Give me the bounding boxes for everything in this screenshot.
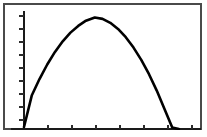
plot-area[interactable] [9, 9, 202, 130]
window-title: Graphing Calculator Display [0, 0, 1, 1]
calculator-display-inner-bezel [5, 5, 200, 128]
chart-svg [9, 9, 202, 130]
calculator-display-frame [3, 3, 202, 130]
parabola-curve [24, 18, 179, 129]
screenshot-root: Graphing Calculator Display [0, 0, 207, 137]
